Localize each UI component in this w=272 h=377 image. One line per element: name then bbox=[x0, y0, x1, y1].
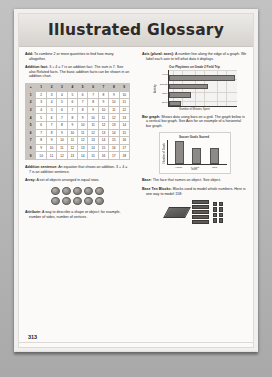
row-header-cell: 1 bbox=[26, 91, 36, 99]
column-header-cell: 8 bbox=[109, 83, 119, 91]
table-cell: 16 bbox=[109, 144, 119, 152]
table-cell: 5 bbox=[46, 106, 56, 114]
table-cell: 10 bbox=[46, 144, 56, 152]
chart-bar bbox=[169, 101, 181, 106]
table-cell: 16 bbox=[119, 137, 129, 145]
array-dot-icon bbox=[51, 197, 61, 206]
table-cell: 12 bbox=[67, 144, 77, 152]
chart-tick-label: Hawks bbox=[175, 166, 182, 168]
chart-corner-cell: + bbox=[26, 83, 36, 91]
array-dot-icon bbox=[62, 197, 72, 206]
ones-units-group bbox=[213, 202, 223, 223]
table-cell: 9 bbox=[88, 106, 98, 114]
table-cell: 10 bbox=[67, 129, 77, 137]
chart-title: Soccer Goals Scored bbox=[162, 135, 227, 139]
table-cell: 10 bbox=[57, 137, 67, 145]
table-cell: 12 bbox=[57, 152, 67, 160]
table-cell: 7 bbox=[57, 114, 67, 122]
ones-unit-icon bbox=[213, 202, 217, 206]
table-cell: 3 bbox=[36, 99, 46, 107]
table-cell: 2 bbox=[36, 91, 46, 99]
chart-title: Our Playtimes on Grade 2 Field Trip bbox=[153, 65, 237, 69]
table-cell: 10 bbox=[78, 121, 88, 129]
chart-bar bbox=[169, 75, 235, 80]
table-cell: 7 bbox=[46, 121, 56, 129]
table-cell: 15 bbox=[98, 144, 108, 152]
glossary-entry-add: Add: To combine 2 or more quantities to … bbox=[25, 52, 130, 61]
chart-bar bbox=[169, 84, 208, 89]
table-cell: 13 bbox=[67, 152, 77, 160]
glossary-entry-axis: Axis (plural: axes): A number line along… bbox=[142, 52, 247, 61]
table-cell: 11 bbox=[46, 152, 56, 160]
term-label: Attribute: bbox=[25, 210, 41, 214]
table-row: 891011121314151617 bbox=[26, 144, 130, 152]
chart-bar bbox=[192, 148, 201, 164]
table-cell: 12 bbox=[78, 137, 88, 145]
array-figure bbox=[25, 187, 130, 206]
term-label: Axis (plural: axes): bbox=[142, 52, 174, 56]
column-header-cell: 5 bbox=[78, 83, 88, 91]
definition-text: To combine 2 or more quantities to find … bbox=[29, 52, 113, 61]
column-header-cell: 6 bbox=[88, 83, 98, 91]
table-cell: 11 bbox=[57, 144, 67, 152]
table-cell: 11 bbox=[78, 129, 88, 137]
chart-plot-area: Activity FieldSwingsSlideCourt bbox=[153, 70, 237, 107]
table-cell: 6 bbox=[46, 114, 56, 122]
table-cell: 9 bbox=[46, 137, 56, 145]
chart-x-axis-label: Number of Minutes Spent bbox=[153, 108, 237, 111]
tens-rod-icon bbox=[192, 205, 209, 209]
table-cell: 13 bbox=[98, 129, 108, 137]
row-header-cell: 2 bbox=[26, 99, 36, 107]
array-row bbox=[51, 197, 105, 206]
glossary-entry-attribute: Attribute: A way to describe a shape or … bbox=[25, 210, 130, 219]
chart-bar bbox=[169, 92, 191, 97]
array-row bbox=[51, 187, 105, 196]
glossary-entry-addition-fact: Addition fact: 3 + 4 = 7 is an addition … bbox=[25, 65, 130, 79]
page-shadow bbox=[14, 352, 258, 355]
ones-unit-icon bbox=[219, 218, 223, 222]
table-cell: 13 bbox=[119, 114, 129, 122]
chart-bar bbox=[210, 148, 219, 164]
table-cell: 5 bbox=[36, 114, 46, 122]
table-cell: 6 bbox=[36, 121, 46, 129]
ones-unit-icon bbox=[219, 202, 223, 206]
column-header-cell: 4 bbox=[67, 83, 77, 91]
table-cell: 8 bbox=[98, 91, 108, 99]
table-cell: 15 bbox=[119, 129, 129, 137]
table-cell: 9 bbox=[67, 121, 77, 129]
chart-y-axis-label: Activity bbox=[153, 70, 158, 107]
ones-unit-icon bbox=[219, 213, 223, 217]
table-cell: 7 bbox=[67, 106, 77, 114]
array-dot-icon bbox=[84, 187, 94, 196]
table-cell: 11 bbox=[119, 99, 129, 107]
definition-text: A set of objects arranged in equal rows. bbox=[36, 178, 100, 182]
table-row: 3456789101112 bbox=[26, 106, 130, 114]
table-cell: 7 bbox=[78, 99, 88, 107]
table-cell: 13 bbox=[88, 137, 98, 145]
table-row: 6789101112131415 bbox=[26, 129, 130, 137]
row-header-cell: 7 bbox=[26, 137, 36, 145]
chart-tick-label: Slide bbox=[158, 92, 168, 95]
chart-tick-label: Field bbox=[158, 73, 168, 76]
table-cell: 10 bbox=[36, 152, 46, 160]
table-cell: 10 bbox=[98, 106, 108, 114]
table-cell: 11 bbox=[88, 121, 98, 129]
term-label: Bar graph: bbox=[142, 115, 160, 119]
row-header-cell: 6 bbox=[26, 129, 36, 137]
ones-unit-icon bbox=[213, 207, 217, 211]
table-cell: 10 bbox=[88, 114, 98, 122]
table-cell: 8 bbox=[57, 121, 67, 129]
table-cell: 17 bbox=[109, 152, 119, 160]
table-cell: 11 bbox=[67, 137, 77, 145]
table-cell: 8 bbox=[36, 137, 46, 145]
column-header-cell: 2 bbox=[46, 83, 56, 91]
table-header-row: +123456789 bbox=[26, 83, 130, 91]
row-header-cell: 5 bbox=[26, 121, 36, 129]
table-cell: 9 bbox=[78, 114, 88, 122]
glossary-entry-array: Array: A set of objects arranged in equa… bbox=[25, 178, 130, 183]
ones-unit-icon bbox=[213, 213, 217, 217]
table-cell: 12 bbox=[88, 129, 98, 137]
definition-text: A way to describe a shape or object; for… bbox=[29, 210, 120, 219]
array-dot-icon bbox=[95, 197, 105, 206]
table-cell: 11 bbox=[109, 106, 119, 114]
